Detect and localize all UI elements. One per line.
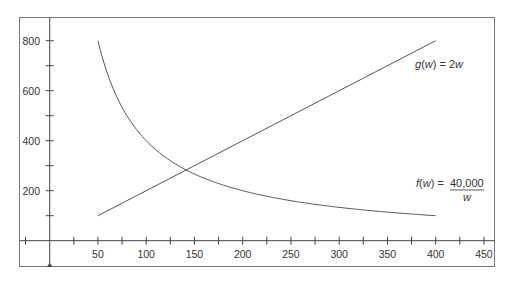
y-tick-label: 400 [22, 135, 40, 147]
y-tick-label: 200 [22, 185, 40, 197]
chart-frame [20, 18, 495, 267]
x-tick-label: 200 [234, 248, 252, 260]
x-tick-label: 50 [92, 248, 104, 260]
g-line [98, 41, 436, 216]
f-numerator: 40,000 [450, 177, 484, 189]
series-group [98, 41, 436, 216]
x-tick-label: 300 [330, 248, 348, 260]
x-tick-label: 100 [137, 248, 155, 260]
f-function-label: f(w) = [416, 177, 444, 189]
g-function-label: g(w) = 2w [415, 58, 464, 70]
function-labels: g(w) = 2w f(w) = 40,000 w [415, 58, 484, 203]
y-tick-label: 600 [22, 85, 40, 97]
chart: 50100150200250300350400450200400600800 g… [0, 0, 514, 281]
x-tick-label: 400 [427, 248, 445, 260]
axes [20, 18, 495, 268]
f-denominator: w [463, 191, 472, 203]
x-tick-label: 150 [186, 248, 204, 260]
y-tick-label: 800 [22, 35, 40, 47]
y-axis-arrow [47, 263, 53, 267]
x-tick-label: 250 [282, 248, 300, 260]
x-tick-label: 350 [379, 248, 397, 260]
x-tick-label: 450 [475, 248, 493, 260]
